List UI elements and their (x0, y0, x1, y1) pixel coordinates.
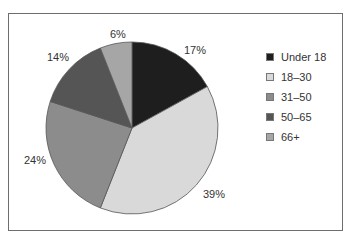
slice-label-under-18: 17% (184, 44, 206, 56)
legend-label: 18–30 (281, 71, 312, 83)
legend: Under 18 18–30 31–50 50–65 66+ (266, 47, 326, 147)
slice-label-18-30: 39% (203, 188, 225, 200)
slice-label-66-plus: 6% (110, 28, 126, 40)
legend-label: 31–50 (281, 91, 312, 103)
legend-swatch-icon (266, 133, 274, 141)
legend-label: 50–65 (281, 111, 312, 123)
legend-item-31-50: 31–50 (266, 87, 326, 107)
legend-item-18-30: 18–30 (266, 67, 326, 87)
legend-swatch-icon (266, 73, 274, 81)
legend-label: 66+ (281, 131, 300, 143)
legend-swatch-icon (266, 113, 274, 121)
slice-label-31-50: 24% (24, 154, 46, 166)
slice-label-50-65: 14% (47, 51, 69, 63)
legend-item-under-18: Under 18 (266, 47, 326, 67)
legend-item-50-65: 50–65 (266, 107, 326, 127)
legend-swatch-icon (266, 53, 274, 61)
legend-swatch-icon (266, 93, 274, 101)
legend-label: Under 18 (281, 51, 326, 63)
legend-item-66-plus: 66+ (266, 127, 326, 147)
